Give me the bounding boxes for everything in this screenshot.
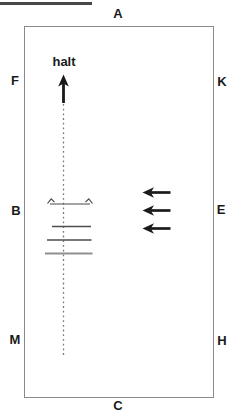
left-arrow-icon: [143, 187, 171, 198]
diagram-shapes: [0, 0, 240, 420]
left-arrow-icon: [143, 205, 171, 216]
dressage-diagram: A F K B E M H C halt: [0, 0, 240, 420]
left-arrow-icon: [143, 223, 171, 234]
halt-up-arrow-icon: [58, 75, 69, 104]
spread-tick-symbol: [48, 199, 93, 204]
